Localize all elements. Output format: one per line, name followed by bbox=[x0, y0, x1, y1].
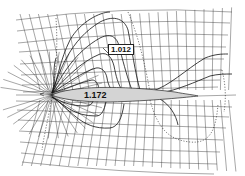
airfoil-mesh-diagram: 1.012 1.172 bbox=[0, 0, 245, 176]
mesh-svg bbox=[0, 0, 245, 176]
pressure-contours bbox=[42, 12, 232, 150]
contour-label-airfoil: 1.172 bbox=[84, 90, 107, 100]
airfoil-shape bbox=[52, 87, 198, 102]
contour-label-upper: 1.012 bbox=[108, 44, 134, 55]
